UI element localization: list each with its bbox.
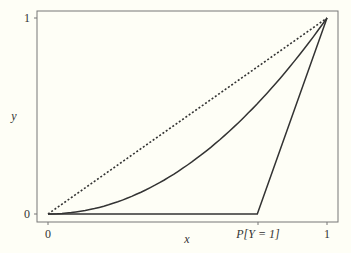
chart: 1 0 0 P[Y = 1] 1 y x — [0, 0, 351, 253]
series-layer — [48, 18, 327, 214]
x-axis-label: x — [183, 232, 190, 246]
x-tick-label-1: 1 — [324, 227, 330, 241]
y-tick-label-1: 1 — [24, 11, 30, 25]
y-tick-label-0: 0 — [24, 207, 30, 221]
x-tick-label-p: P[Y = 1] — [235, 227, 280, 241]
x-tick-label-0: 0 — [45, 227, 51, 241]
series-diagonal — [48, 18, 327, 214]
y-axis-label: y — [10, 109, 17, 123]
